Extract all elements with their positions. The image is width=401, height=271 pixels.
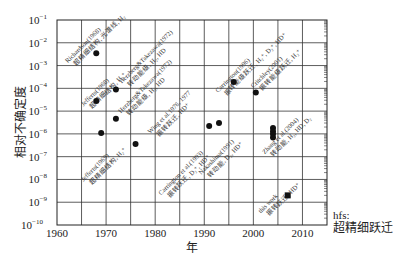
data-point-square: [285, 192, 291, 198]
annotation-ref: Herzberg&Takezawa(1972): [118, 28, 175, 85]
annotation: Richardson(1968)超精细结构, 光谱线, H₂: [64, 7, 127, 70]
legend-note: hfs: 超精细跃迁: [333, 209, 393, 235]
x-tick-label: 1980: [144, 227, 167, 239]
x-axis-ticks: 196019701980199020002010: [46, 227, 314, 239]
x-tick-label: 1970: [95, 227, 118, 239]
x-tick-label: 1960: [46, 227, 69, 239]
annotations: Richardson(1968)超精细结构, 光谱线, H₂Jefferts(1…: [64, 7, 313, 221]
y-axis-label: 相对不确定度: [13, 86, 28, 158]
x-tick-label: 1990: [193, 227, 216, 239]
data-point: [93, 98, 99, 104]
data-point: [253, 90, 259, 96]
annotation: Carrington et al.(1993)振转跃迁, D₂⁺, HD⁺: [157, 148, 212, 203]
data-point: [216, 120, 222, 126]
x-axis-label: 年: [186, 241, 198, 255]
x-tick-label: 2000: [242, 227, 265, 239]
data-point: [98, 130, 104, 136]
data-point: [270, 134, 276, 140]
y-tick-label: 10−3: [29, 59, 48, 72]
data-point: [113, 116, 119, 122]
data-point: [93, 50, 99, 56]
annotation-ref: Carrington et al.(1993): [157, 149, 205, 197]
y-tick-label: 10−4: [29, 81, 48, 94]
legend-note-desc: 超精细跃迁: [333, 222, 393, 235]
y-tick-label: 10−7: [29, 150, 48, 163]
x-tick-label: 2010: [291, 227, 314, 239]
y-tick-label: 10−1: [29, 13, 48, 26]
data-point: [133, 141, 139, 147]
annotation: Zhang et al.(2004)转动能, H₂, HD, D₂: [260, 109, 312, 161]
annotation: Critchley(2001)振转能级跃迁, H₂⁺: [249, 42, 302, 95]
y-tick-label: 10−2: [29, 36, 48, 49]
y-tick-label: 10−6: [29, 127, 48, 140]
data-point: [113, 86, 119, 92]
y-tick-label: 10−9: [29, 195, 48, 208]
y-tick-label: 10−5: [29, 104, 48, 117]
y-tick-label: 10−10: [21, 218, 43, 231]
annotation: this work振转跃迁, HD⁺: [256, 175, 301, 220]
annotation: Wing et al.1976, 1977振转跃迁, HD⁺: [146, 88, 199, 141]
data-point: [231, 79, 237, 85]
y-tick-label: 10−8: [29, 172, 48, 185]
annotation: Jefferts(1969)超精细结构, H₂⁺: [79, 140, 128, 189]
data-point: [206, 123, 212, 129]
